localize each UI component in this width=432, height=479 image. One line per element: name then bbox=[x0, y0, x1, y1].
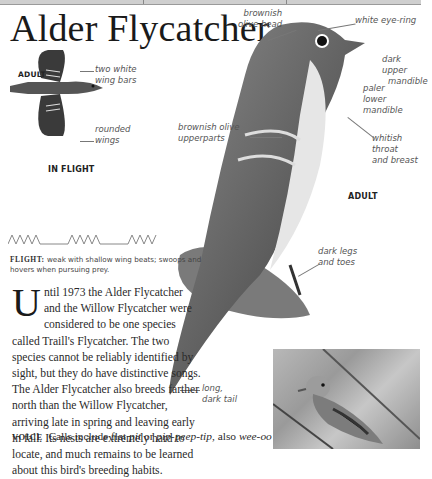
top-border-bar bbox=[0, 0, 421, 5]
species-description: Until 1973 the Alder Flycatcher and the … bbox=[12, 285, 202, 479]
annotation-rounded-wings: rounded wings bbox=[95, 124, 131, 146]
annotation-tail: long, dark tail bbox=[202, 383, 237, 405]
in-flight-caption: IN FLIGHT bbox=[48, 165, 95, 174]
main-age-label: ADULT bbox=[348, 192, 378, 201]
leader-line bbox=[250, 137, 282, 138]
flight-pattern-icon bbox=[8, 232, 158, 246]
annotation-legs: dark legs and toes bbox=[318, 246, 357, 268]
annotation-upperparts: brownish olive upperparts bbox=[178, 122, 240, 144]
leader-line bbox=[80, 141, 94, 142]
leader-line bbox=[80, 71, 94, 72]
annotation-wing-bars: two white wing bars bbox=[95, 64, 136, 86]
bird-photo bbox=[273, 349, 420, 449]
drop-cap: U bbox=[12, 287, 41, 319]
annotation-lower-mandible: paler lower mandible bbox=[363, 83, 421, 116]
annotation-throat: whitish throat and breast bbox=[372, 133, 421, 166]
annotation-eye-ring: white eye-ring bbox=[355, 15, 416, 26]
divider bbox=[143, 0, 144, 4]
annotation-head: brownish olive head bbox=[238, 8, 282, 30]
divider bbox=[286, 0, 287, 4]
bird-in-flight-illustration bbox=[8, 48, 108, 138]
flight-age-label: ADULT bbox=[18, 70, 46, 79]
flight-description: FLIGHT: weak with shallow wing beats; sw… bbox=[10, 255, 210, 275]
